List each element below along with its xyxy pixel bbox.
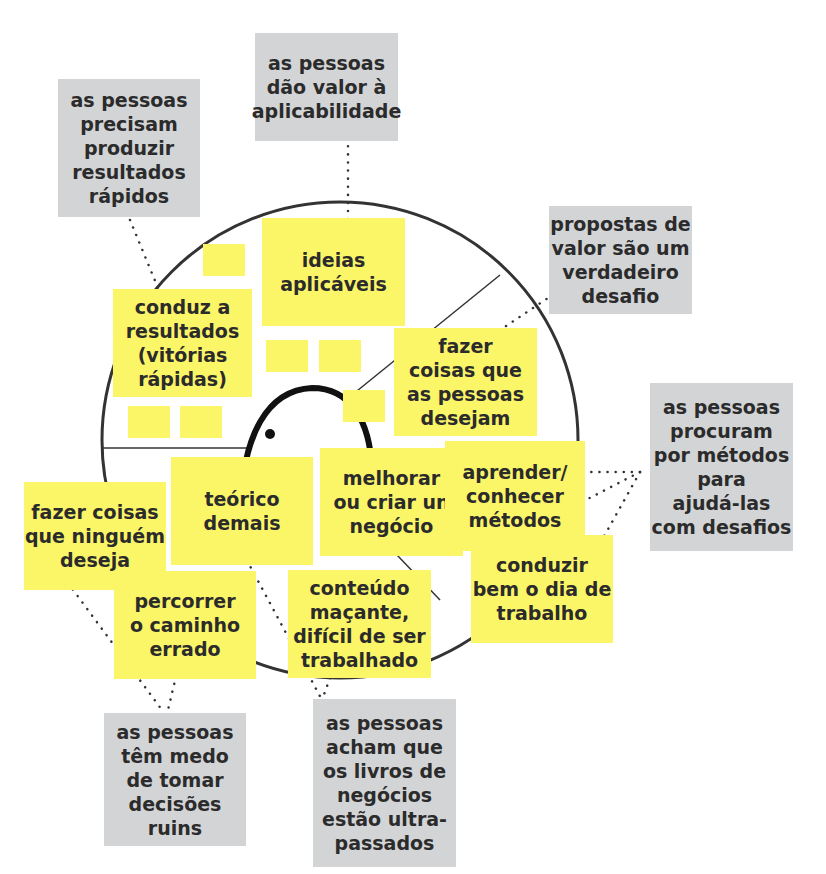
pain-wrong-path: percorrer o caminho errado xyxy=(114,571,256,679)
gain-applicable-ideas: ideias aplicáveis xyxy=(262,218,405,326)
blank-sticky xyxy=(266,340,308,372)
insight-books-outdated: as pessoas acham que os livros de negóci… xyxy=(313,699,456,867)
pain-boring-content: conteúdo maçante, difícil de ser trabalh… xyxy=(288,570,431,678)
blank-sticky xyxy=(343,390,385,422)
product-things-people-want: fazer coisas que as pessoas desejam xyxy=(394,328,537,436)
insight-quick-results: as pessoas precisam produzir resultados … xyxy=(58,79,200,217)
gain-quick-wins: conduz a resultados (vitórias rápidas) xyxy=(113,289,252,397)
pain-too-theoretical: teórico demais xyxy=(171,457,313,565)
insight-methods: as pessoas procuram por métodos para aju… xyxy=(650,383,793,551)
job-run-workday: conduzir bem o dia de trabalho xyxy=(471,535,613,643)
blank-sticky xyxy=(203,244,245,276)
blank-sticky xyxy=(180,406,222,438)
insight-value-propositions-challenge: propostas de valor são um verdadeiro des… xyxy=(549,206,692,314)
insight-fear-bad-decisions: as pessoas têm medo de tomar decisões ru… xyxy=(104,713,246,846)
job-improve-business: melhorar ou criar un negócio xyxy=(320,448,463,556)
blank-sticky xyxy=(319,340,361,372)
blank-sticky xyxy=(128,406,170,438)
insight-applicability: as pessoas dão valor à aplicabilidade xyxy=(255,33,398,141)
eye-icon xyxy=(265,429,275,439)
